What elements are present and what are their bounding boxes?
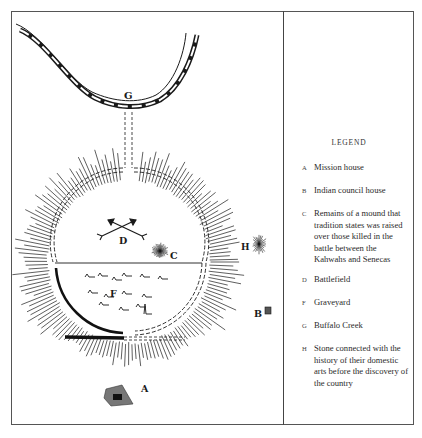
- legend-title: LEGEND: [284, 138, 414, 147]
- council-house-icon: [265, 307, 271, 314]
- legend-panel: LEGEND A Mission house B Indian council …: [284, 11, 414, 425]
- map-label-g: G: [124, 90, 133, 101]
- buffalo-creek: [16, 24, 197, 107]
- map-label-h: H: [241, 242, 250, 252]
- mound-icon: [152, 243, 168, 258]
- legend-description: Stone connected with the history of thei…: [314, 343, 410, 389]
- map-label-b: B: [254, 308, 262, 319]
- palisade-arc: [56, 268, 123, 333]
- graveyard-markers: [85, 273, 168, 314]
- palisade-bar: [65, 337, 124, 338]
- legend-letter: H: [302, 343, 307, 355]
- legend-description: Battlefield: [314, 274, 410, 286]
- legend-letter: D: [302, 274, 307, 286]
- dashed-extension: [124, 337, 185, 340]
- mission-house-icon: [104, 385, 133, 406]
- legend-letter: F: [302, 297, 306, 309]
- map-label-d: D: [119, 235, 127, 246]
- legend-description: Buffalo Creek: [314, 320, 410, 332]
- map-label-a: A: [140, 383, 149, 394]
- legend-letter: B: [302, 185, 307, 197]
- legend-description: Graveyard: [314, 297, 410, 309]
- legend-description: Mission house: [314, 162, 410, 174]
- legend-letter: A: [302, 162, 307, 174]
- legend-letter: G: [302, 320, 307, 332]
- legend-description: Remains of a mound that tradition states…: [314, 208, 410, 266]
- stone-icon: [253, 235, 267, 254]
- legend-letter: C: [302, 208, 307, 220]
- path-to-creek: [125, 112, 132, 168]
- embankment-hatching: [12, 148, 244, 366]
- legend-description: Indian council house: [314, 185, 410, 197]
- map-label-f: F: [110, 288, 117, 299]
- map-label-c: C: [170, 250, 178, 261]
